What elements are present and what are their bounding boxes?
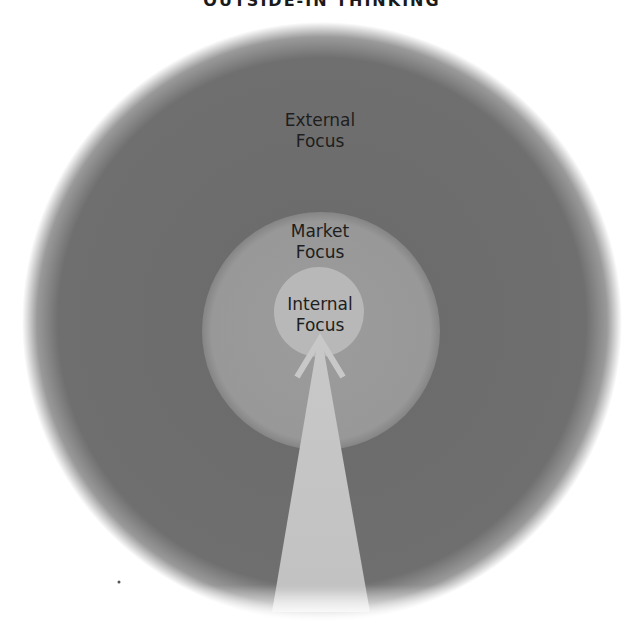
market-focus-line2: Focus <box>291 242 349 263</box>
internal-focus-line2: Focus <box>287 315 353 336</box>
external-focus-label: External Focus <box>285 110 356 152</box>
market-focus-line1: Market <box>291 221 349 242</box>
external-focus-line2: Focus <box>285 131 356 152</box>
internal-focus-label: Internal Focus <box>287 294 353 336</box>
external-focus-line1: External <box>285 110 356 131</box>
internal-focus-line1: Internal <box>287 294 353 315</box>
market-focus-label: Market Focus <box>291 221 349 263</box>
